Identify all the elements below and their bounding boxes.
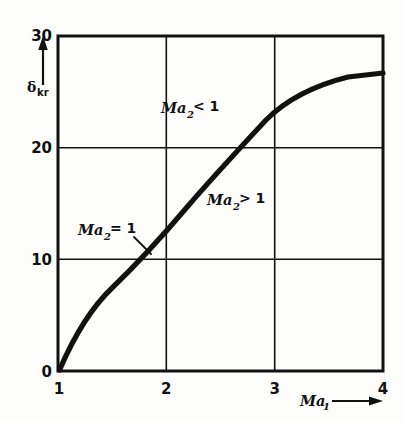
y-tick-label-10: 10 xyxy=(31,251,52,269)
x-axis-label: Ma xyxy=(299,392,325,409)
annotation-subsonic-relation: < 1 xyxy=(193,98,219,114)
annotation-curve-leader-line xyxy=(134,237,151,254)
x-tick-label-1: 1 xyxy=(54,380,64,398)
chart-svg: δ kr 30 20 10 0 1 2 3 4 Ma 1 Ma 2 < 1 Ma… xyxy=(0,0,404,422)
y-tick-label-30: 30 xyxy=(31,27,52,45)
x-axis-label-subscript: 1 xyxy=(323,401,330,412)
y-tick-label-0: 0 xyxy=(42,363,52,381)
x-tick-label-4: 4 xyxy=(378,380,388,398)
data-curve-ma2-equals-1 xyxy=(60,73,384,370)
y-tick-label-20: 20 xyxy=(31,139,52,157)
annotation-subsonic-label: Ma xyxy=(160,99,186,116)
y-axis-label-subscript: kr xyxy=(37,87,49,98)
annotation-curve-relation: = 1 xyxy=(110,220,136,236)
x-tick-label-2: 2 xyxy=(161,380,171,398)
annotation-curve-label: Ma xyxy=(77,221,103,238)
x-tick-label-3: 3 xyxy=(269,380,279,398)
y-axis-label: δ xyxy=(27,79,36,95)
annotation-supersonic-label: Ma xyxy=(206,191,232,208)
chart-figure: δ kr 30 20 10 0 1 2 3 4 Ma 1 Ma 2 < 1 Ma… xyxy=(0,0,404,422)
annotation-supersonic-relation: > 1 xyxy=(239,190,265,206)
